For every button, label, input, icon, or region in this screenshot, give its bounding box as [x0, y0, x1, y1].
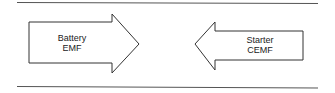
battery-label-line1: Battery: [58, 33, 87, 43]
diagram-canvas: Battery EMF Starter CEMF: [0, 0, 335, 93]
battery-label-line2: EMF: [63, 43, 83, 53]
starter-label-line2: CEMF: [247, 45, 273, 55]
top-rule: [17, 3, 318, 4]
starter-label-line1: Starter: [246, 35, 273, 45]
battery-emf-arrow: [29, 14, 139, 73]
bottom-rule: [17, 87, 318, 89]
emf-diagram: Battery EMF Starter CEMF: [0, 0, 335, 93]
